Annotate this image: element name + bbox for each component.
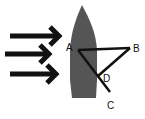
current-arrow-bottom (10, 65, 56, 83)
current-arrow-top (10, 27, 59, 45)
segment-b-d (98, 48, 130, 76)
current-arrow-middle (5, 45, 49, 63)
boat-hull (70, 5, 97, 98)
point-label-b: B (133, 43, 140, 54)
point-label-a: A (66, 42, 73, 53)
point-label-c: C (107, 100, 114, 111)
point-label-d: D (103, 73, 110, 84)
boat-vector-diagram: A B D C (0, 0, 145, 119)
